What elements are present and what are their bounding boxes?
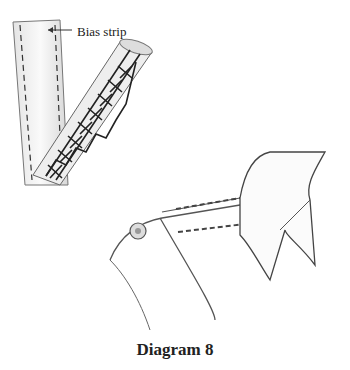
sewing-diagram: [0, 0, 350, 370]
bias-strip-label: Bias strip: [77, 24, 126, 40]
diagram-caption: Diagram 8: [0, 340, 350, 360]
shirt-collar: [110, 152, 325, 330]
